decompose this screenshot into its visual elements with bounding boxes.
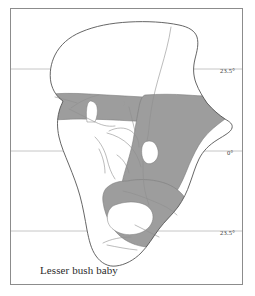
latitude-label-tropic-of-capricorn: 23.5° [220,229,235,236]
latitude-label-equator: 0° [227,149,233,156]
range-gap-gulf-of-guinea [86,101,97,122]
range-gap-kalahari [107,202,153,235]
africa-map-svg [11,9,242,284]
map-caption: Lesser bush baby [40,264,118,276]
map-frame: 23.5° 0° 23.5° Lesser bush baby [10,8,243,285]
latitude-label-tropic-of-cancer: 23.5° [220,67,235,74]
species-range-map-figure: 23.5° 0° 23.5° Lesser bush baby [0,0,255,296]
lake-victoria [142,141,159,164]
